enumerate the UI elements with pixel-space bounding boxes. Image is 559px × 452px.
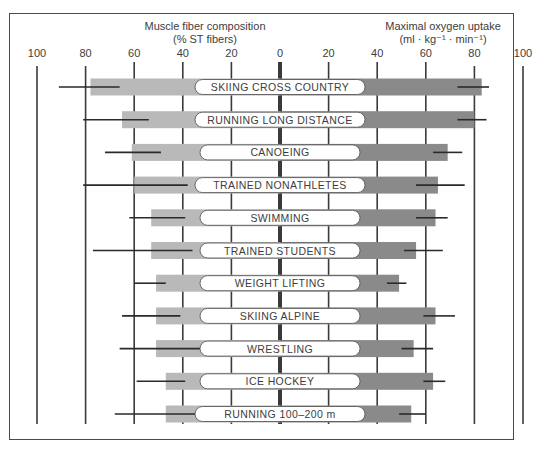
category-label-0: SKIING CROSS COUNTRY: [211, 81, 350, 93]
category-label-1: RUNNING LONG DISTANCE: [207, 114, 352, 126]
category-label-4: SWIMMING: [250, 212, 309, 224]
category-label-8: WRESTLING: [247, 343, 313, 355]
category-label-3: TRAINED NONATHLETES: [213, 179, 346, 191]
diverging-bar-chart: SKIING CROSS COUNTRYRUNNING LONG DISTANC…: [0, 0, 559, 452]
category-label-9: ICE HOCKEY: [246, 375, 315, 387]
category-label-5: TRAINED STUDENTS: [224, 245, 336, 257]
category-label-2: CANOEING: [250, 146, 309, 158]
category-label-6: WEIGHT LIFTING: [235, 277, 326, 289]
category-label-7: SKIING ALPINE: [240, 310, 320, 322]
category-label-10: RUNNING 100–200 m: [224, 408, 335, 420]
